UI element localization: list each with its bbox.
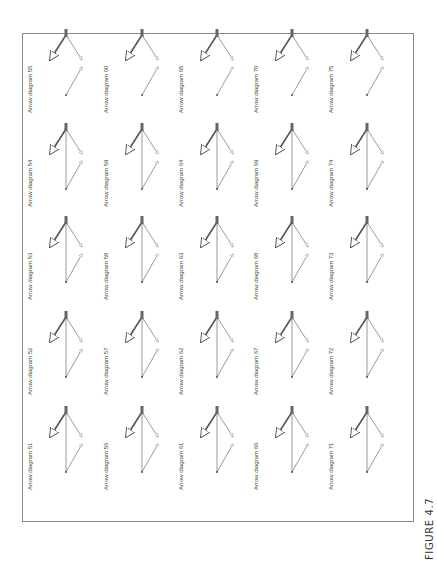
- arrow-edge: [50, 35, 66, 60]
- arrow-diagram-75: Arrow diagram 75: [328, 29, 383, 113]
- arrow-edge: [66, 222, 82, 247]
- arrow-diagram-72: Arrow diagram 72: [328, 311, 383, 395]
- arrow-edge: [276, 222, 292, 247]
- hub-node: [141, 29, 144, 37]
- arrow-diagram-54: Arrow diagram 54: [27, 123, 82, 207]
- diagram-label: Arrow diagram 56: [103, 442, 109, 490]
- arrow-edge: [367, 222, 383, 247]
- node-dot: [216, 188, 218, 190]
- hub-node: [366, 123, 369, 131]
- arrow-edge: [276, 129, 292, 154]
- node-dot: [216, 94, 218, 96]
- arrow-edge: [50, 412, 66, 437]
- diagram-label: Arrow diagram 53: [27, 252, 33, 300]
- arrow-edge: [66, 317, 82, 342]
- hub-node: [141, 406, 144, 414]
- diagram-label: Arrow diagram 62: [178, 347, 184, 395]
- node-dot: [141, 471, 143, 473]
- diagram-label: Arrow diagram 70: [253, 65, 259, 113]
- hub-node: [291, 406, 294, 414]
- node-dot: [141, 376, 143, 378]
- node-dot: [65, 94, 67, 96]
- arrow-edge: [367, 35, 383, 60]
- arrow-diagram-grid: Arrow diagram 51Arrow diagram 52Arrow di…: [0, 0, 437, 572]
- hub-node: [65, 311, 68, 319]
- arrow-diagram-62: Arrow diagram 62: [178, 311, 233, 395]
- node-dot: [141, 281, 143, 283]
- hub-node: [141, 311, 144, 319]
- node-dot: [366, 376, 368, 378]
- arrow-diagram-73: Arrow diagram 73: [328, 216, 383, 300]
- arrow-edge: [217, 67, 233, 95]
- arrow-edge: [142, 222, 158, 247]
- diagram-label: Arrow diagram 69: [253, 159, 259, 207]
- node-dot: [291, 94, 293, 96]
- arrow-edge: [367, 349, 383, 377]
- arrow-edge: [66, 161, 82, 189]
- diagram-label: Arrow diagram 71: [328, 442, 334, 490]
- arrow-edge: [217, 222, 233, 247]
- arrow-edge: [276, 412, 292, 437]
- arrow-edge: [217, 254, 233, 282]
- arrow-diagram-55: Arrow diagram 55: [27, 29, 82, 113]
- arrow-edge: [217, 349, 233, 377]
- arrow-edge: [142, 444, 158, 472]
- arrow-edge: [126, 412, 142, 437]
- diagram-label: Arrow diagram 64: [178, 159, 184, 207]
- arrow-edge: [292, 254, 308, 282]
- arrow-edge: [126, 129, 142, 154]
- hub-node: [65, 216, 68, 224]
- hub-node: [366, 406, 369, 414]
- arrow-edge: [292, 161, 308, 189]
- hub-node: [291, 311, 294, 319]
- arrow-edge: [50, 222, 66, 247]
- node-dot: [366, 471, 368, 473]
- diagram-label: Arrow diagram 60: [103, 65, 109, 113]
- arrow-diagram-70: Arrow diagram 70: [253, 29, 308, 113]
- hub-node: [291, 123, 294, 131]
- arrow-diagram-51: Arrow diagram 51: [27, 406, 82, 490]
- arrow-edge: [367, 317, 383, 342]
- diagram-label: Arrow diagram 57: [103, 347, 109, 395]
- diagram-label: Arrow diagram 68: [253, 252, 259, 300]
- arrow-edge: [292, 317, 308, 342]
- node-dot: [366, 281, 368, 283]
- arrow-edge: [217, 444, 233, 472]
- arrow-edge: [351, 317, 367, 342]
- hub-node: [216, 311, 219, 319]
- arrow-edge: [201, 412, 217, 437]
- node-dot: [291, 281, 293, 283]
- arrow-diagram-57: Arrow diagram 57: [103, 311, 158, 395]
- arrow-edge: [217, 412, 233, 437]
- arrow-edge: [142, 67, 158, 95]
- arrow-edge: [367, 444, 383, 472]
- hub-node: [141, 216, 144, 224]
- diagram-label: Arrow diagram 58: [103, 252, 109, 300]
- arrow-diagram-59: Arrow diagram 59: [103, 123, 158, 207]
- arrow-edge: [276, 317, 292, 342]
- arrow-edge: [217, 129, 233, 154]
- arrow-edge: [217, 35, 233, 60]
- arrow-edge: [217, 161, 233, 189]
- arrow-edge: [351, 222, 367, 247]
- arrow-edge: [142, 129, 158, 154]
- node-dot: [65, 376, 67, 378]
- diagram-label: Arrow diagram 73: [328, 252, 334, 300]
- arrow-edge: [367, 129, 383, 154]
- hub-node: [65, 29, 68, 37]
- arrow-edge: [66, 129, 82, 154]
- arrow-edge: [142, 317, 158, 342]
- arrow-edge: [217, 317, 233, 342]
- arrow-diagram-69: Arrow diagram 69: [253, 123, 308, 207]
- hub-node: [366, 216, 369, 224]
- hub-node: [216, 29, 219, 37]
- arrow-diagram-60: Arrow diagram 60: [103, 29, 158, 113]
- arrow-edge: [66, 444, 82, 472]
- arrow-edge: [351, 35, 367, 60]
- node-dot: [216, 281, 218, 283]
- node-dot: [141, 188, 143, 190]
- hub-node: [216, 216, 219, 224]
- node-dot: [216, 471, 218, 473]
- arrow-edge: [126, 35, 142, 60]
- arrow-edge: [50, 317, 66, 342]
